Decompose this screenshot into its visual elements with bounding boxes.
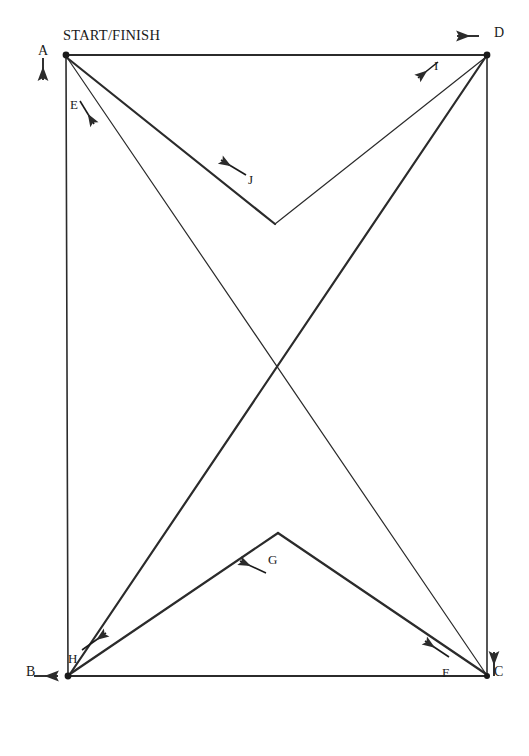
segment-label-H: H — [68, 652, 77, 665]
leg-G-apex-to-C — [278, 533, 486, 674]
node-dot-B — [65, 673, 72, 680]
segment-label-E: E — [70, 98, 78, 111]
left-arrow-icon-J — [221, 160, 246, 175]
edge-A-B — [66, 55, 68, 676]
leg-B-to-G-apex — [70, 533, 278, 674]
node-dot-C — [484, 673, 490, 679]
segment-label-F: F — [442, 666, 449, 679]
diagonal-arrow-icon-E — [80, 101, 94, 124]
course-route-svg — [0, 0, 529, 756]
segment-label-J: J — [248, 173, 253, 186]
node-label-C: C — [494, 665, 503, 679]
segment-label-I: I — [434, 59, 438, 72]
node-label-A: A — [38, 44, 48, 58]
diagonal-arrow-icon-F — [425, 641, 449, 657]
node-label-B: B — [26, 665, 35, 679]
course-diagram-page: START/FINISH A B C D E H G F I J — [0, 0, 529, 756]
start-finish-label: START/FINISH — [63, 28, 160, 43]
leg-I-apex-to-D — [275, 57, 486, 224]
diagonal-arrow-icon-G — [240, 561, 266, 573]
leg-J-A-to-apex — [66, 57, 275, 224]
node-dot-D — [484, 52, 491, 59]
node-dot-A — [63, 52, 70, 59]
segment-label-G: G — [268, 553, 277, 566]
diagonal-arrow-icon-H — [82, 633, 106, 650]
node-label-D: D — [494, 26, 504, 40]
